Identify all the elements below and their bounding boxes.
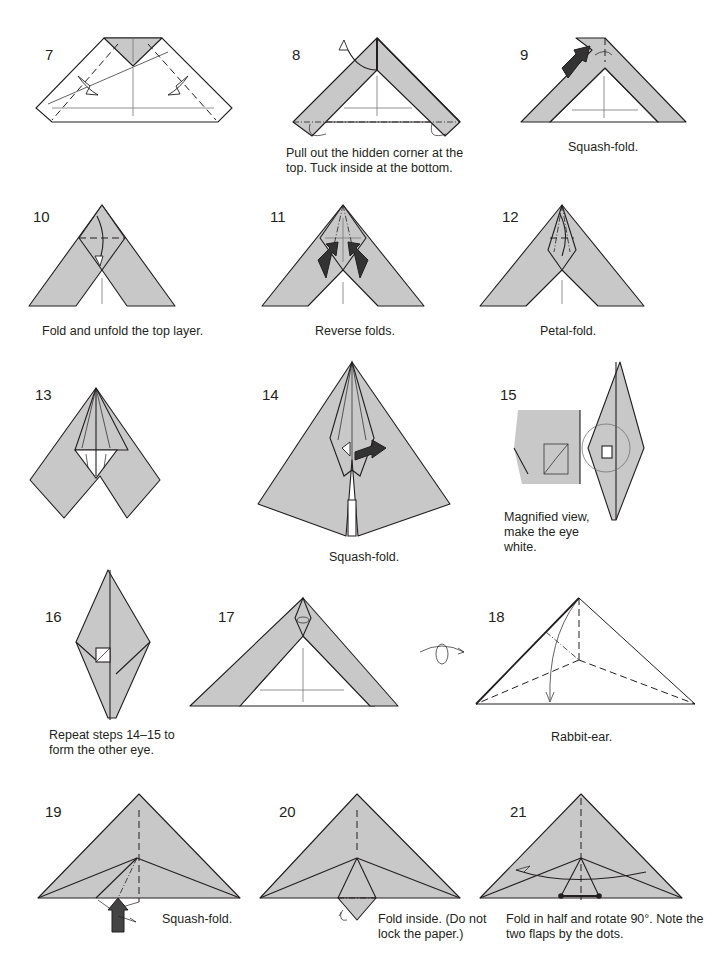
step-13-diagram <box>0 350 240 570</box>
step-18: 18 Rabbit-ear. <box>470 570 720 770</box>
step-12-diagram <box>480 190 720 350</box>
step-19: 19 Squash-fold. <box>0 770 250 975</box>
step-12: 12 Petal-fold. <box>480 190 720 350</box>
step-caption: Rabbit-ear. <box>551 730 612 745</box>
step-17-diagram <box>190 570 420 770</box>
step-8: 8 Pull out the hidden corner at the top.… <box>240 0 480 190</box>
step-13: 13 <box>0 350 240 570</box>
step-caption: Squash-fold. <box>329 550 399 565</box>
step-14: 14 Squash-fold. <box>240 350 480 570</box>
push-arrow-icon <box>108 898 128 932</box>
flap-dot <box>558 893 564 899</box>
step-16: 16 Repeat steps 14–15 to form the other … <box>0 570 200 770</box>
step-caption: Fold and unfold the top layer. <box>42 324 203 339</box>
step-10: 10 Fold and unfold the top layer. <box>0 190 240 350</box>
step-caption: Magnified view, make the eye white. <box>504 510 614 555</box>
step-14-diagram <box>240 350 480 570</box>
step-20: 20 Fold inside. (Do not lock the paper.) <box>255 770 480 975</box>
step-19-diagram <box>0 770 250 975</box>
step-caption: Squash-fold. <box>568 140 638 155</box>
step-7: 7 <box>0 0 240 190</box>
step-21-diagram <box>480 770 720 975</box>
step-caption: Fold in half and rotate 90°. Note the tw… <box>506 912 716 942</box>
fold-arrow-icon <box>339 40 348 50</box>
step-7-diagram <box>0 0 240 190</box>
step-caption: Squash-fold. <box>162 912 232 927</box>
step-15: 15 Magnified view, make the eye white. <box>480 350 720 570</box>
step-caption: Reverse folds. <box>315 324 395 339</box>
step-9: 9 Squash-fold. <box>480 0 720 190</box>
step-caption: Fold inside. (Do not lock the paper.) <box>378 912 488 942</box>
step-caption: Repeat steps 14–15 to form the other eye… <box>49 728 199 758</box>
step-11: 11 Reverse folds. <box>240 190 480 350</box>
step-caption: Petal-fold. <box>540 324 596 339</box>
step-caption: Pull out the hidden corner at the top. T… <box>286 146 476 176</box>
step-20-diagram <box>255 770 480 975</box>
magnified-view <box>514 410 580 484</box>
step-21: 21 Fold in half and rotate 90°. Note the… <box>480 770 720 975</box>
step-17: 17 <box>190 570 420 770</box>
flap-dot <box>596 893 602 899</box>
turn-over-icon <box>418 640 468 670</box>
step-9-diagram <box>480 0 720 190</box>
